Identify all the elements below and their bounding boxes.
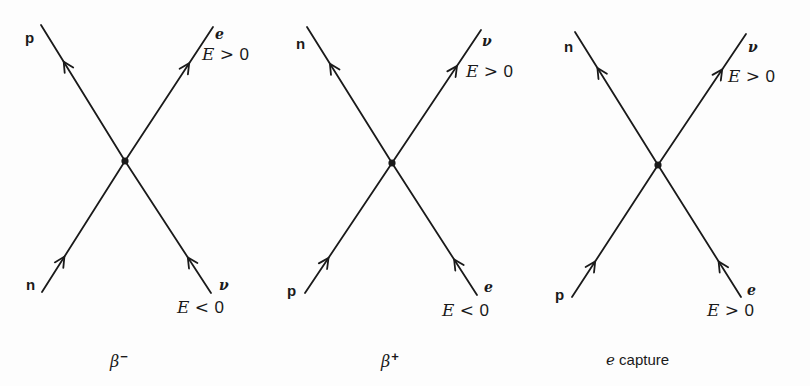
particle-line-bottom-left xyxy=(572,165,658,297)
caption-minus-superscript: − xyxy=(120,349,128,364)
energy-operator: > xyxy=(725,300,739,320)
particle-label-proton: p xyxy=(287,283,296,298)
particle-line-bottom-left xyxy=(42,161,125,292)
energy-operator: < xyxy=(460,300,474,320)
energy-operator: > xyxy=(484,61,498,81)
vertex-diagram-beta-plus xyxy=(305,27,481,295)
particle-label-proton: p xyxy=(555,287,564,302)
arrowhead-icon xyxy=(454,259,464,270)
particle-label-neutrino: ν xyxy=(748,40,758,54)
arrowhead-icon xyxy=(64,62,73,73)
particle-line-top-left xyxy=(575,32,658,165)
particle-label-neutron: n xyxy=(564,39,573,54)
particle-label-neutrino: ν xyxy=(482,34,492,48)
energy-zero: 0 xyxy=(744,301,753,320)
energy-label-negative: E < 0 xyxy=(177,299,224,316)
energy-label-negative: E < 0 xyxy=(442,302,489,319)
energy-label-positive: E > 0 xyxy=(466,63,513,80)
vertex-dot-icon xyxy=(654,161,661,168)
caption-electron-capture: e capture xyxy=(606,352,669,368)
arrowhead-icon xyxy=(597,68,607,79)
diagram-canvas xyxy=(0,0,810,386)
caption-beta-plus: β+ xyxy=(381,350,399,370)
arrowhead-icon xyxy=(447,66,457,77)
arrowhead-icon xyxy=(55,257,65,268)
particle-label-proton: p xyxy=(25,30,34,45)
energy-zero: 0 xyxy=(765,67,774,86)
vertex-diagram-electron-capture xyxy=(572,32,746,297)
caption-plus-superscript: + xyxy=(391,349,399,364)
particle-line-top-right xyxy=(392,30,481,163)
particle-line-top-right xyxy=(125,27,213,161)
caption-capture-text: capture xyxy=(615,351,669,368)
arrowhead-icon xyxy=(188,257,198,268)
energy-label-positive: E > 0 xyxy=(728,68,775,85)
particle-label-neutrino: ν xyxy=(219,278,229,292)
energy-symbol: E xyxy=(466,61,478,81)
energy-zero: 0 xyxy=(479,301,488,320)
particle-label-electron: e xyxy=(747,283,756,297)
energy-symbol: E xyxy=(728,66,740,86)
energy-symbol: E xyxy=(177,297,189,317)
particle-line-top-left xyxy=(307,27,392,163)
particle-line-top-left xyxy=(41,25,125,161)
energy-label-positive-bottom: E > 0 xyxy=(707,302,754,319)
energy-symbol: E xyxy=(202,44,214,64)
caption-beta-symbol: β xyxy=(110,352,119,371)
energy-label-positive: E > 0 xyxy=(202,46,249,63)
arrowhead-icon xyxy=(180,63,190,74)
vertex-diagram-beta-minus xyxy=(41,25,213,293)
particle-line-top-right xyxy=(658,34,746,165)
vertex-dot-icon xyxy=(388,159,395,166)
particle-line-bottom-right xyxy=(392,163,477,295)
particle-line-bottom-right xyxy=(658,165,741,297)
energy-operator: < xyxy=(195,297,209,317)
energy-symbol: E xyxy=(442,300,454,320)
energy-operator: > xyxy=(220,44,234,64)
arrowhead-icon xyxy=(586,261,596,272)
vertex-dot-icon xyxy=(121,157,128,164)
arrowhead-icon xyxy=(713,69,723,80)
caption-beta-symbol: β xyxy=(381,352,390,371)
caption-beta-minus: β− xyxy=(110,350,128,370)
particle-line-bottom-right xyxy=(125,161,211,293)
arrowhead-icon xyxy=(330,64,340,75)
energy-zero: 0 xyxy=(214,298,223,317)
particle-label-neutron: n xyxy=(296,36,305,51)
arrowhead-icon xyxy=(719,261,729,272)
particle-label-electron: e xyxy=(215,27,224,41)
energy-zero: 0 xyxy=(503,62,512,81)
particle-label-electron: e xyxy=(484,280,493,294)
particle-label-neutron: n xyxy=(26,277,35,292)
arrowhead-icon xyxy=(319,258,329,269)
energy-operator: > xyxy=(746,66,760,86)
energy-symbol: E xyxy=(707,300,719,320)
caption-electron-symbol: e xyxy=(606,351,615,369)
energy-zero: 0 xyxy=(239,45,248,64)
particle-line-bottom-left xyxy=(305,163,392,293)
